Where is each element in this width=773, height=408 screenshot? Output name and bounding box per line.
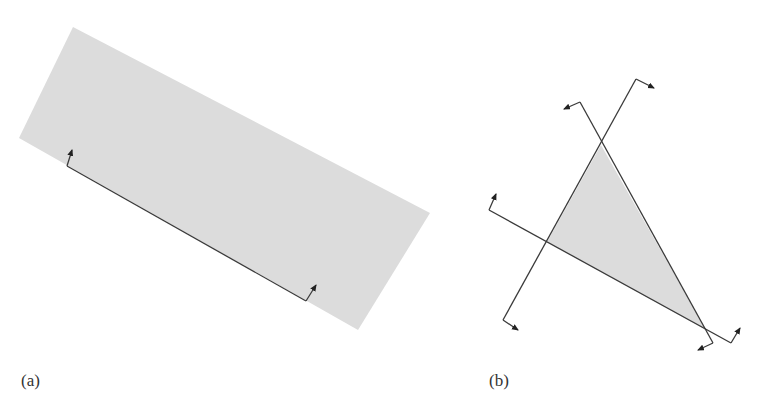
panel-label-b: (b): [489, 371, 509, 391]
normal-arrow-icon: [503, 320, 518, 330]
normal-arrow-icon: [731, 328, 740, 343]
panel-label-a: (a): [21, 371, 40, 391]
figure-canvas: [0, 0, 773, 408]
half-plane-region: [19, 27, 430, 330]
triangle-region: [547, 145, 706, 330]
panel-b: [489, 79, 740, 350]
normal-arrow-icon: [636, 79, 654, 88]
panel-a: [19, 27, 430, 330]
normal-arrow-icon: [489, 194, 496, 210]
normal-arrow-icon: [698, 343, 713, 350]
normal-arrow-icon: [564, 102, 580, 109]
